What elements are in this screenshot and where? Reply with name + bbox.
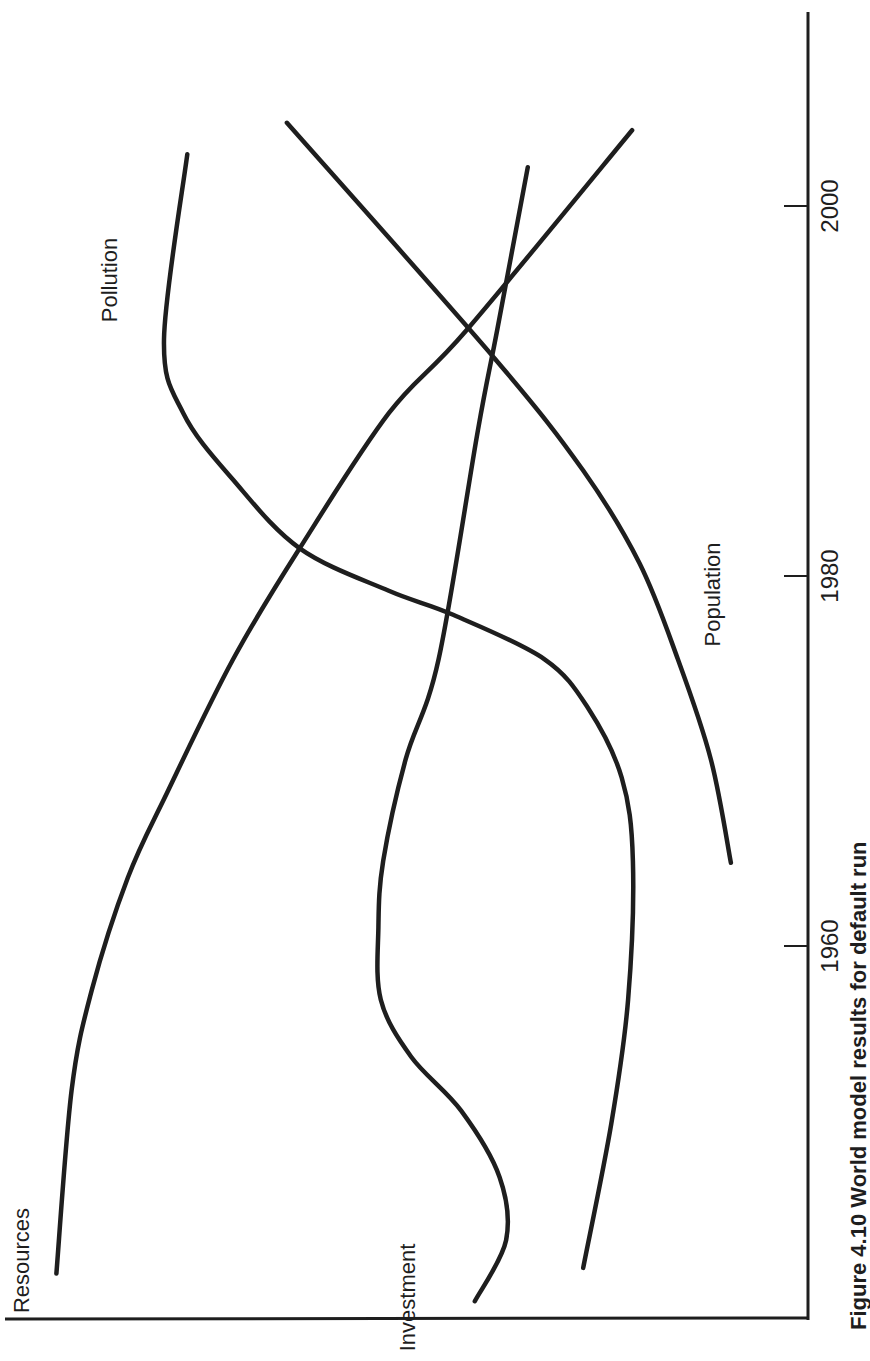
- series-curves: [56, 123, 731, 1301]
- series-line-investment: [377, 167, 527, 1301]
- time-ticks: 196019802000: [784, 179, 843, 972]
- series-label-investment: Investment: [395, 1244, 420, 1352]
- series-label-population: Population: [700, 543, 725, 647]
- tick-label-1980: 1980: [816, 549, 843, 602]
- tick-label-1960: 1960: [816, 919, 843, 972]
- series-labels: ResourcesInvestmentPollutionPopulation: [9, 238, 725, 1352]
- series-label-resources: Resources: [9, 1208, 34, 1313]
- series-line-pollution: [164, 154, 633, 1268]
- series-label-pollution: Pollution: [97, 238, 122, 322]
- tick-label-2000: 2000: [816, 179, 843, 232]
- series-line-population: [287, 123, 731, 863]
- axes: [5, 12, 809, 1320]
- figure-caption: Figure 4.10 World model results for defa…: [846, 841, 870, 1330]
- series-line-resources: [56, 130, 632, 1273]
- world-model-chart: 196019802000 ResourcesInvestmentPollutio…: [0, 0, 870, 1361]
